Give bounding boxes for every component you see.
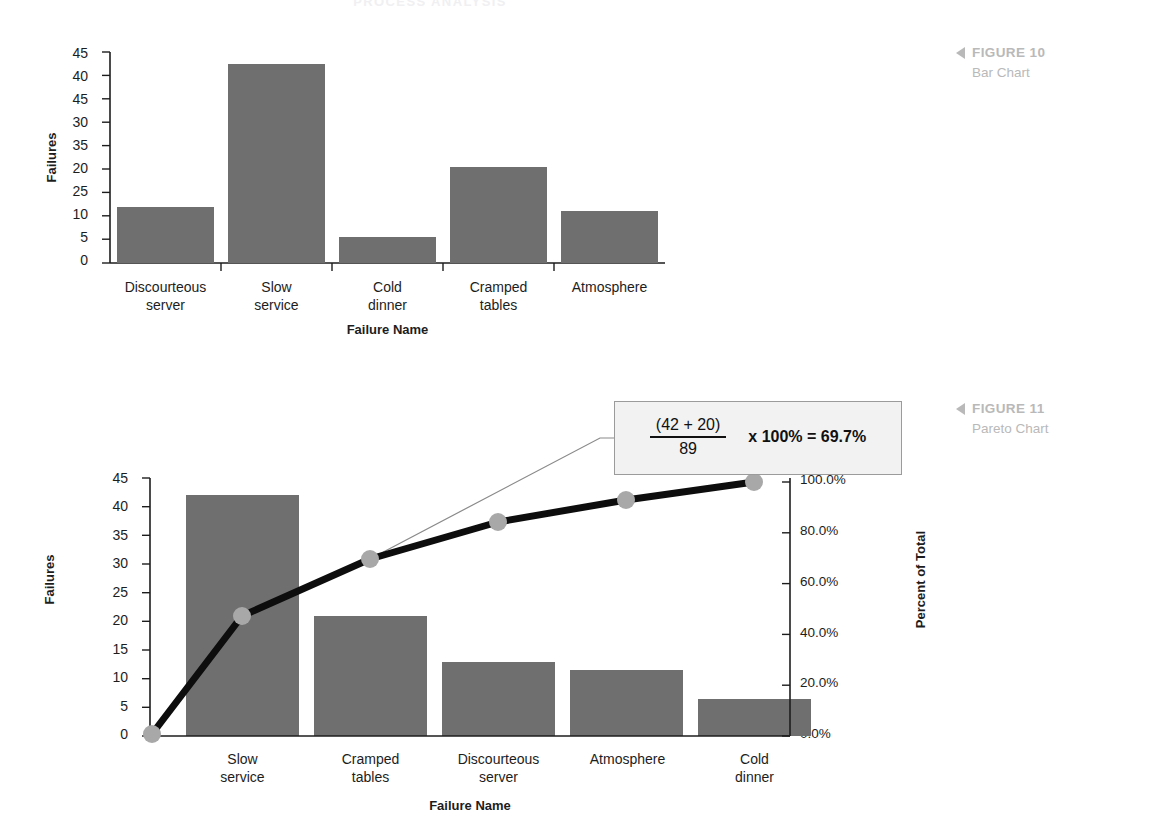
pareto-category-3-line1: Atmosphere bbox=[590, 751, 665, 767]
bar-chart-category-3-line1: Cramped bbox=[470, 279, 528, 295]
bar-chart-category-3: Cramped tables bbox=[443, 278, 554, 314]
figure-page: PROCESS ANALYSIS FIGURE 10 Bar Chart FIG… bbox=[0, 0, 1151, 835]
cumulative-marker-2 bbox=[361, 550, 379, 568]
bar-discourteous-server bbox=[117, 207, 214, 263]
pareto-category-2-line1: Discourteous bbox=[458, 751, 540, 767]
figure-caption-10: FIGURE 10 Bar Chart bbox=[956, 44, 1045, 82]
bar-cold-dinner bbox=[339, 237, 436, 263]
pareto-category-4: Cold dinner bbox=[698, 750, 811, 786]
pareto-category-2: Discourteous server bbox=[436, 750, 561, 786]
bar-slow-service bbox=[228, 64, 325, 263]
bar-chart-category-1-line1: Slow bbox=[261, 279, 291, 295]
bar-atmosphere bbox=[561, 211, 658, 263]
callout-denominator: 89 bbox=[650, 436, 726, 458]
bar-chart-x-axis-title: Failure Name bbox=[110, 322, 665, 337]
bar-chart-category-1-line2: service bbox=[254, 297, 298, 313]
pareto-category-1: Cramped tables bbox=[314, 750, 427, 786]
bar-chart-category-2: Cold dinner bbox=[332, 278, 443, 314]
pareto-category-1-line2: tables bbox=[352, 769, 389, 785]
bar-chart-category-1: Slow service bbox=[221, 278, 332, 314]
bar-chart-category-0-line2: server bbox=[146, 297, 185, 313]
left-triangle-icon bbox=[956, 47, 965, 59]
cumulative-marker-3 bbox=[489, 513, 507, 531]
pareto-category-4-line1: Cold bbox=[740, 751, 769, 767]
callout-fraction: (42 + 20) 89 bbox=[650, 416, 726, 458]
bar-chart-category-2-line2: dinner bbox=[368, 297, 407, 313]
cumulative-marker-5 bbox=[745, 473, 763, 491]
bar-chart-category-4: Atmosphere bbox=[554, 278, 665, 296]
figure-caption-10-subtitle: Bar Chart bbox=[972, 64, 1045, 82]
bar-chart-figure-10: Failures 45 40 45 30 35 20 25 10 5 0 bbox=[0, 0, 900, 350]
cumulative-marker-4 bbox=[617, 491, 635, 509]
figure-caption-11-label: FIGURE 11 bbox=[972, 401, 1045, 416]
figure-caption-10-label: FIGURE 10 bbox=[972, 45, 1045, 60]
bar-chart-category-4-line1: Atmosphere bbox=[572, 279, 647, 295]
figure-caption-11: FIGURE 11 Pareto Chart bbox=[956, 400, 1049, 438]
bar-chart-category-0: Discourteous server bbox=[110, 278, 221, 314]
figure-caption-11-subtitle: Pareto Chart bbox=[972, 420, 1049, 438]
cumulative-marker-0 bbox=[143, 725, 161, 743]
callout-numerator: (42 + 20) bbox=[650, 416, 726, 436]
pareto-x-axis-title: Failure Name bbox=[150, 798, 790, 813]
pareto-category-0-line2: service bbox=[220, 769, 264, 785]
callout-result: x 100% = 69.7% bbox=[748, 428, 866, 446]
pareto-category-1-line1: Cramped bbox=[342, 751, 400, 767]
bar-chart-category-2-line1: Cold bbox=[373, 279, 402, 295]
pareto-category-3: Atmosphere bbox=[565, 750, 690, 768]
pareto-category-4-line2: dinner bbox=[735, 769, 774, 785]
pareto-category-0-line1: Slow bbox=[227, 751, 257, 767]
callout-box: (42 + 20) 89 x 100% = 69.7% bbox=[614, 401, 902, 475]
cumulative-marker-1 bbox=[233, 607, 251, 625]
bar-chart-category-3-line2: tables bbox=[480, 297, 517, 313]
bar-chart-category-0-line1: Discourteous bbox=[125, 279, 207, 295]
pareto-category-0: Slow service bbox=[186, 750, 299, 786]
bar-cramped-tables bbox=[450, 167, 547, 263]
pareto-category-2-line2: server bbox=[479, 769, 518, 785]
